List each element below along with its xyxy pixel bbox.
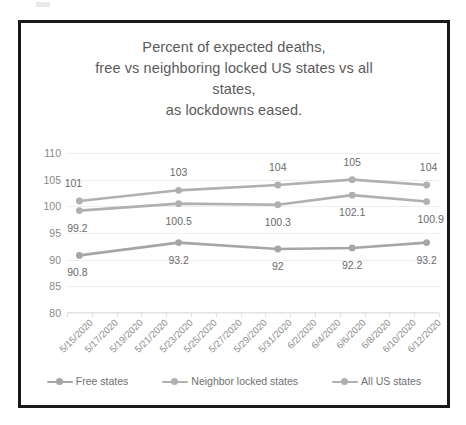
- y-axis-tick-label: 100: [43, 200, 61, 212]
- data-label: 99.2: [67, 222, 87, 234]
- data-label: 101: [65, 177, 83, 189]
- y-axis-tick-label: 105: [43, 174, 61, 186]
- legend-item-3[interactable]: All US states: [332, 375, 421, 387]
- data-label: 92: [272, 260, 284, 272]
- data-label: 93.2: [168, 254, 188, 266]
- scan-artifact: [36, 2, 50, 7]
- data-point-marker: [274, 201, 281, 208]
- data-label: 104: [420, 161, 438, 173]
- data-label: 100.9: [417, 213, 443, 225]
- series-line-3: [79, 195, 426, 210]
- chart-canvas: Percent of expected deaths, free vs neig…: [21, 23, 447, 405]
- data-label: 103: [170, 166, 188, 178]
- data-label: 93.2: [416, 254, 436, 266]
- legend-label: All US states: [361, 375, 421, 387]
- plot-area: 90.893.29292.293.210110310410510499.2100…: [67, 153, 439, 313]
- legend-marker-icon: [47, 377, 73, 386]
- data-point-marker: [423, 198, 430, 205]
- series-line-1: [79, 243, 426, 256]
- data-label: 100.3: [265, 216, 291, 228]
- data-point-marker: [175, 187, 182, 194]
- data-label: 90.8: [67, 266, 87, 278]
- y-axis-tick-labels: 80859095100105110: [21, 153, 65, 313]
- chart-title-line-1: Percent of expected deaths,: [21, 37, 447, 58]
- data-point-marker: [423, 182, 430, 189]
- data-label: 105: [343, 156, 361, 168]
- y-axis-tick-label: 85: [49, 280, 61, 292]
- data-point-marker: [349, 192, 356, 199]
- legend-marker-icon: [162, 377, 188, 386]
- data-point-marker: [76, 198, 83, 205]
- y-axis-tick-label: 80: [49, 307, 61, 319]
- legend-item-2[interactable]: Neighbor locked states: [162, 375, 298, 387]
- chart-title-line-3: states,: [21, 79, 447, 100]
- data-point-marker: [423, 239, 430, 246]
- y-axis-tick-label: 95: [49, 227, 61, 239]
- legend-label: Neighbor locked states: [191, 375, 298, 387]
- legend-label: Free states: [76, 375, 129, 387]
- chart-legend: Free statesNeighbor locked statesAll US …: [21, 375, 447, 387]
- data-point-marker: [274, 246, 281, 253]
- data-point-marker: [175, 200, 182, 207]
- chart-title: Percent of expected deaths, free vs neig…: [21, 37, 447, 121]
- x-axis-tick-labels: 5/15/20205/17/20205/19/20205/21/20205/23…: [67, 317, 439, 379]
- chart-title-line-2: free vs neighboring locked US states vs …: [21, 58, 447, 79]
- series-layer: [67, 153, 439, 313]
- chart-frame: Percent of expected deaths, free vs neig…: [18, 20, 450, 408]
- data-label: 104: [269, 161, 287, 173]
- data-point-marker: [76, 252, 83, 259]
- gridline: [67, 313, 439, 314]
- data-label: 102.1: [339, 206, 365, 218]
- data-point-marker: [349, 245, 356, 252]
- data-point-marker: [76, 207, 83, 214]
- y-axis-tick-label: 110: [44, 147, 61, 159]
- data-point-marker: [274, 182, 281, 189]
- y-axis-tick-label: 90: [49, 254, 61, 266]
- legend-item-1[interactable]: Free states: [47, 375, 129, 387]
- data-point-marker: [349, 176, 356, 183]
- data-label: 92.2: [342, 259, 362, 271]
- data-label: 100.5: [165, 215, 191, 227]
- chart-title-line-4: as lockdowns eased.: [21, 100, 447, 121]
- x-axis-tick: [439, 313, 440, 317]
- data-point-marker: [175, 239, 182, 246]
- legend-marker-icon: [332, 377, 358, 386]
